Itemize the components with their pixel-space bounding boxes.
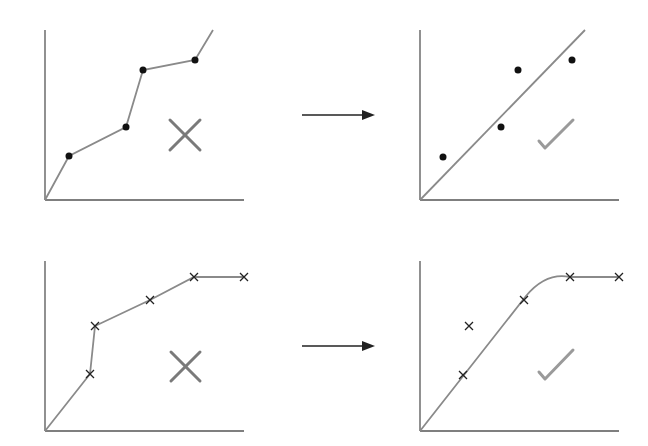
panel-bottom-right [420, 261, 623, 431]
data-points [440, 57, 576, 161]
overfit-polyline [45, 277, 244, 431]
smooth-fit-curve [420, 276, 619, 431]
panel-bottom-left [45, 261, 248, 431]
arrow-right-icon [302, 110, 375, 120]
axes [45, 30, 244, 200]
axes [45, 261, 244, 431]
cross-icon [171, 352, 200, 381]
diagram-canvas [0, 0, 648, 446]
data-points [86, 273, 248, 378]
linear-fit-line [420, 30, 585, 200]
axes [420, 30, 619, 200]
cross-icon [170, 120, 200, 150]
panel-top-right [420, 30, 619, 200]
panel-top-left [45, 30, 244, 200]
check-icon [539, 350, 573, 379]
check-icon [539, 120, 573, 148]
overfit-polyline [45, 30, 213, 200]
data-points [459, 273, 623, 379]
axes [420, 261, 619, 431]
arrow-right-icon [302, 341, 375, 351]
